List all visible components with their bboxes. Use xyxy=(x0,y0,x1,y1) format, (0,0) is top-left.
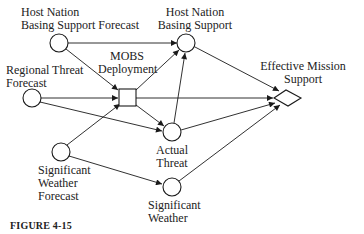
label-sig-weather: Significant Weather xyxy=(148,199,201,225)
label-hnbs-forecast: Host Nation Basing Support Forecast xyxy=(21,6,139,32)
figure-caption: FIGURE 4-15 xyxy=(10,220,72,231)
node-sig-weather xyxy=(163,178,181,196)
label-sig-weather-forecast: Significant Weather Forecast xyxy=(38,164,91,203)
label-actual-threat: Actual Threat xyxy=(150,144,194,170)
node-sig-weather-forecast xyxy=(52,143,70,161)
node-mobs-deployment xyxy=(119,89,136,106)
node-hnbs-forecast xyxy=(50,34,68,52)
label-hnbs: Host Nation Basing Support xyxy=(150,6,240,32)
node-hnbs xyxy=(177,34,195,52)
label-mobs-deployment: MOBS Deployment xyxy=(98,50,156,76)
edge-actual-threat-to-hnbs xyxy=(174,53,185,123)
edge-regional-threat-to-actual-threat xyxy=(40,102,162,131)
label-regional-threat-forecast: Regional Threat Forecast xyxy=(6,64,83,90)
node-effective-mission-support xyxy=(274,90,301,106)
edge-mobs-to-actual-threat xyxy=(136,105,164,126)
node-actual-threat xyxy=(163,123,181,141)
label-effective-mission-support: Effective Mission Support xyxy=(260,60,346,86)
edge-actual-threat-to-ems xyxy=(181,103,275,130)
node-regional-threat-forecast xyxy=(23,89,41,107)
